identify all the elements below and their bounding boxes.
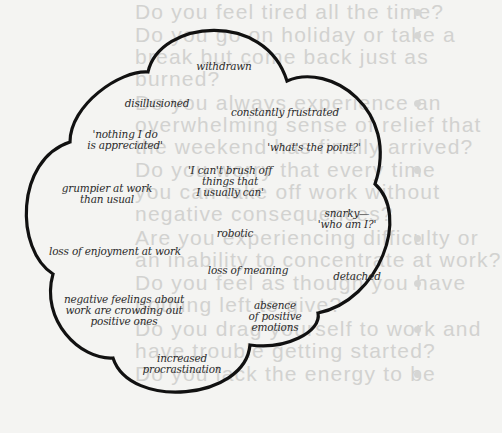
label-line: constantly frustrated: [231, 107, 339, 118]
label-line: 'what's the point?': [267, 142, 360, 153]
label-loss-of-enjoyment: loss of enjoyment at work: [49, 246, 181, 257]
label-negative-feelings: negative feelings aboutwork are crowding…: [64, 294, 184, 327]
label-line: loss of meaning: [208, 265, 288, 276]
label-line: I usually can': [188, 187, 272, 198]
label-disillusioned: disillusioned: [125, 98, 189, 109]
label-increased-procrastination: increasedprocrastination: [143, 353, 222, 375]
label-line: is appreciated': [87, 140, 163, 151]
label-nothing-i-do: 'nothing I dois appreciated': [87, 129, 163, 151]
label-line: detached: [333, 271, 380, 282]
label-snarky: snarky—'who am I?': [318, 208, 376, 230]
label-line: emotions: [249, 322, 302, 333]
label-robotic: robotic: [217, 228, 253, 239]
label-line: robotic: [217, 228, 253, 239]
label-line: withdrawn: [196, 61, 251, 72]
label-line: positive ones: [64, 316, 184, 327]
label-line: loss of enjoyment at work: [49, 246, 181, 257]
label-line: disillusioned: [125, 98, 189, 109]
label-cant-brush-off: 'I can't brush offthings thatI usually c…: [188, 165, 272, 198]
label-line: 'who am I?': [318, 219, 376, 230]
label-loss-of-meaning: loss of meaning: [208, 265, 288, 276]
label-line: procrastination: [143, 364, 222, 375]
label-absence: absenceof positiveemotions: [249, 300, 302, 333]
label-withdrawn: withdrawn: [196, 61, 251, 72]
label-grumpier: grumpier at workthan usual: [62, 183, 152, 205]
label-whats-the-point: 'what's the point?': [267, 142, 360, 153]
label-line: than usual: [62, 194, 152, 205]
label-constantly-frustrated: constantly frustrated: [231, 107, 339, 118]
label-detached: detached: [333, 271, 380, 282]
